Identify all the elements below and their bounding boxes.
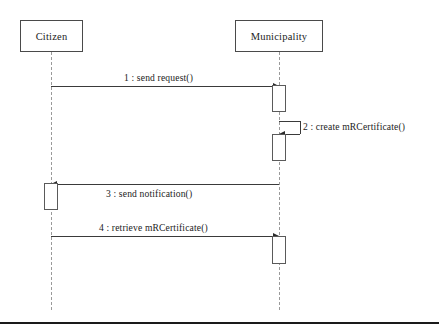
activation-act-citizen-1 xyxy=(44,183,58,210)
message-label-4: 4 : retrieve mRCertificate() xyxy=(99,222,208,233)
message-line-1 xyxy=(51,86,279,87)
participant-label-municipality: Municipality xyxy=(251,31,308,42)
participant-label-citizen: Citizen xyxy=(36,31,68,42)
participant-citizen[interactable]: Citizen xyxy=(20,20,83,52)
self-message-top-2 xyxy=(279,121,300,122)
self-message-right-2 xyxy=(300,121,301,134)
message-line-4 xyxy=(51,236,279,237)
bottom-rule xyxy=(0,322,439,324)
participant-municipality[interactable]: Municipality xyxy=(235,20,323,52)
activation-act-municipality-3 xyxy=(272,236,286,264)
message-label-3: 3 : send notification() xyxy=(106,188,192,199)
activation-act-municipality-2 xyxy=(272,134,286,161)
message-label-1: 1 : send request() xyxy=(124,72,193,83)
sequence-diagram-canvas: 1 : send request()2 : create mRCertifica… xyxy=(0,0,439,333)
self-message-return-2 xyxy=(285,134,300,135)
message-label-2: 2 : create mRCertificate() xyxy=(303,121,405,132)
activation-act-municipality-1 xyxy=(272,85,286,112)
message-line-3 xyxy=(51,184,279,185)
